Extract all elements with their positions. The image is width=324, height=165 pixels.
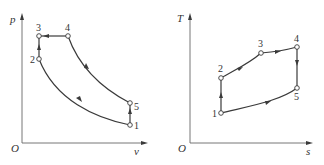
pv-process-4-5 (68, 36, 130, 103)
ts-point-4 (295, 45, 300, 50)
t-axis-label: T (177, 12, 184, 24)
ts-label-3: 3 (258, 38, 263, 49)
ts-label-5: 5 (294, 91, 299, 102)
p-axis-label: p (9, 13, 16, 25)
ts-point-5 (295, 86, 300, 91)
ts-label-2: 2 (218, 63, 223, 74)
ts-point-2 (219, 76, 224, 81)
pv-point-3 (37, 34, 42, 39)
pv-point-4 (66, 34, 71, 39)
pv-arrow-5-1-icon (128, 108, 132, 114)
pv-arrow-2-3-icon (37, 44, 41, 50)
pv-label-3: 3 (36, 22, 41, 33)
ts-diagram: T O s 1 2 3 4 5 (177, 12, 313, 157)
v-axis-arrow-icon (141, 141, 148, 145)
pv-point-2 (37, 57, 42, 62)
ts-arrow-4-5-icon (295, 60, 299, 66)
ts-process-5-1 (221, 88, 297, 113)
pv-label-5: 5 (134, 101, 139, 112)
ts-label-1: 1 (212, 108, 217, 119)
t-axis-arrow-icon (188, 13, 192, 20)
p-axis-arrow-icon (20, 13, 24, 20)
ts-arrow-5-1-icon (265, 101, 271, 105)
pv-arrow-3-4-icon (43, 34, 49, 38)
thermodynamic-cycle-diagrams: p O v 1 2 3 4 5 T O s (0, 0, 324, 165)
ts-arrow-2-3-icon (237, 67, 243, 71)
ts-point-1 (219, 111, 224, 116)
pv-label-4: 4 (65, 22, 70, 33)
ts-point-3 (259, 51, 264, 56)
v-axis-label: v (134, 145, 139, 157)
s-axis-label: s (306, 145, 310, 157)
pv-diagram: p O v 1 2 3 4 5 (9, 13, 148, 157)
ts-arrow-1-2-icon (219, 92, 223, 98)
ts-label-4: 4 (294, 33, 299, 44)
ts-origin-label: O (178, 142, 186, 154)
pv-label-2: 2 (30, 54, 35, 65)
pv-label-1: 1 (134, 120, 139, 131)
pv-process-1-2 (39, 59, 130, 125)
pv-point-1 (128, 123, 133, 128)
ts-process-2-3 (221, 53, 261, 78)
pv-arrow-1-2-icon (76, 96, 82, 102)
pv-point-5 (128, 101, 133, 106)
pv-origin-label: O (11, 142, 19, 154)
ts-process-3-4 (261, 47, 297, 53)
